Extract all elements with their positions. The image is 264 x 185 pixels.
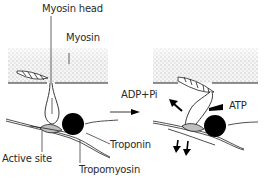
myosin-filament-left	[8, 48, 108, 83]
cross-bridge-diagram: Myosin head Myosin ADP+Pi ATP Troponin A…	[0, 0, 264, 185]
troponin-left	[62, 113, 84, 135]
label-atp: ATP	[229, 101, 247, 111]
troponin-right	[204, 115, 226, 137]
atp-wedge	[209, 104, 223, 111]
active-site-left	[40, 124, 62, 132]
active-site-right	[182, 124, 204, 132]
left-panel	[6, 16, 118, 163]
label-troponin: Troponin	[110, 140, 151, 150]
label-myosin-head: Myosin head	[42, 4, 103, 14]
movement-arrows	[173, 140, 191, 156]
label-active-site: Active site	[2, 154, 52, 164]
transition-arrow	[110, 109, 140, 115]
label-tropomyosin: Tropomyosin	[79, 165, 140, 175]
myosin-filament-right	[153, 48, 258, 83]
label-adp-pi: ADP+Pi	[121, 90, 157, 100]
label-myosin: Myosin	[66, 33, 100, 43]
adp-release-arrow	[169, 99, 182, 111]
